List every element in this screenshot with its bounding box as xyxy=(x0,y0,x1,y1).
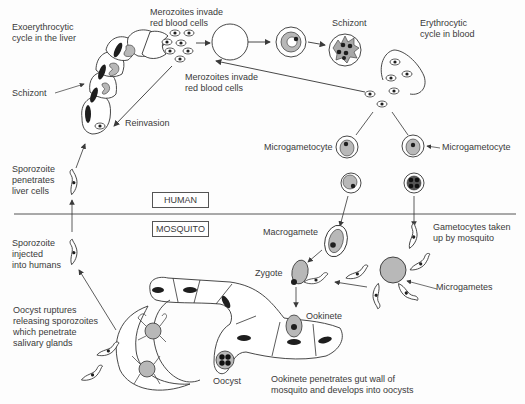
red-blood-cell xyxy=(212,24,248,60)
ookinete-cell xyxy=(286,315,302,337)
label-microgametocyte-right: Microgametocyte xyxy=(442,142,511,153)
region-mosquito: MOSQUITO xyxy=(152,221,209,237)
macrogametocyte-lower xyxy=(341,173,361,193)
macrogamete-cell xyxy=(321,223,351,260)
sporozoite-injected xyxy=(63,239,82,265)
salivary-gland xyxy=(116,306,190,390)
label-sporozoite-injected: Sporozoite injected into humans xyxy=(12,238,61,271)
microgametocyte-right xyxy=(402,135,424,157)
microgamete-exflagellation xyxy=(344,223,433,309)
label-oocyst-ruptures: Oocyst ruptures releasing sporozoites wh… xyxy=(13,305,98,349)
label-gametocytes-taken: Gametocytes taken up by mosquito xyxy=(433,222,511,244)
label-microgametocyte-left: Microgametocyte xyxy=(264,142,333,153)
schizont-blood-cell xyxy=(329,34,361,66)
label-schizont-liver: Schizont xyxy=(12,88,47,99)
label-microgametes: Microgametes xyxy=(436,282,493,293)
label-erythrocytic: Erythrocytic cycle in blood xyxy=(420,18,475,40)
microgametocyte-lower xyxy=(404,173,424,193)
region-human: HUMAN xyxy=(152,192,209,208)
microgametocyte-left xyxy=(336,136,358,158)
label-oocyst: Oocyst xyxy=(213,376,241,387)
label-exoerythrocytic: Exoerythrocytic cycle in the liver xyxy=(12,22,76,44)
label-merozoites-invade-mid: Merozoites invade red blood cells xyxy=(185,72,258,94)
label-schizont-blood: Schizont xyxy=(332,18,367,29)
label-sporozoite-penetrates: Sporozoite penetrates liver cells xyxy=(12,164,55,197)
label-reinvasion: Reinvasion xyxy=(125,118,170,129)
label-merozoites-invade-top: Merozoites invade red blood cells xyxy=(150,7,223,29)
sporozoite-liver xyxy=(63,169,82,195)
life-cycle-diagram: Exoerythrocytic cycle in the liver Meroz… xyxy=(0,0,525,404)
rbc-ring-stage xyxy=(276,27,306,57)
label-ookinete: Ookinete xyxy=(306,311,342,322)
label-macrogamete: Macrogamete xyxy=(263,227,318,238)
label-ookinete-penetrates: Ookinete penetrates gut wall of mosquito… xyxy=(271,374,414,396)
oocyst-cell xyxy=(216,351,234,369)
zygote-cell xyxy=(290,259,328,285)
label-zygote: Zygote xyxy=(255,268,283,279)
